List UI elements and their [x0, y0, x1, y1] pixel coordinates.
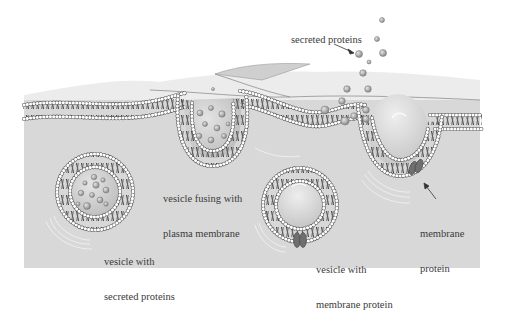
label-secreted-proteins: secreted proteins — [291, 34, 362, 46]
label-vesicle-membrane-protein-line2: membrane protein — [316, 299, 393, 311]
label-membrane-protein-line1: membrane — [420, 228, 464, 240]
label-vesicle-secreted-line1: vesicle with — [104, 256, 175, 268]
label-vesicle-membrane-protein: vesicle with membrane protein — [316, 241, 393, 314]
label-vesicle-secreted-line2: secreted proteins — [104, 291, 175, 303]
label-membrane-protein: membrane protein — [420, 205, 464, 286]
label-vesicle-membrane-protein-line1: vesicle with — [316, 264, 393, 276]
label-membrane-protein-line2: protein — [420, 263, 464, 275]
label-vesicle-fusing: vesicle fusing with plasma membrane — [163, 170, 242, 251]
fusing-vesicle — [177, 94, 247, 166]
label-vesicle-secreted: vesicle with secreted proteins — [104, 233, 175, 314]
label-vesicle-fusing-line1: vesicle fusing with — [163, 193, 242, 205]
label-vesicle-fusing-line2: plasma membrane — [163, 228, 242, 240]
